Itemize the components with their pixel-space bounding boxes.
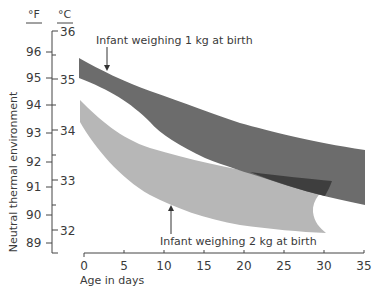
x-axis-title: Age in days	[80, 274, 145, 287]
x-tick-labels: 0 5 10 15 20 25 30 35	[80, 259, 371, 273]
svg-text:95: 95	[26, 71, 41, 85]
annotation-2kg: Infant weighing 2 kg at birth	[160, 235, 317, 248]
svg-text:33: 33	[60, 174, 75, 188]
c-unit-label: °C	[58, 8, 72, 21]
svg-text:35: 35	[60, 73, 75, 87]
svg-text:96: 96	[26, 45, 41, 59]
svg-text:91: 91	[26, 180, 41, 194]
svg-text:36: 36	[60, 25, 75, 39]
arrow-1kg-head	[104, 65, 110, 71]
y-axis-title: Neutral thermal environment	[7, 91, 20, 252]
svg-text:35: 35	[356, 259, 371, 273]
svg-text:90: 90	[26, 208, 41, 222]
svg-text:92: 92	[26, 155, 41, 169]
svg-text:34: 34	[60, 124, 75, 138]
svg-text:5: 5	[120, 259, 128, 273]
svg-text:15: 15	[196, 259, 211, 273]
svg-text:30: 30	[316, 259, 331, 273]
f-ticks	[46, 52, 52, 243]
svg-text:89: 89	[26, 236, 41, 250]
svg-text:94: 94	[26, 98, 41, 112]
f-tick-labels: 96 95 94 93 92 91 90 89	[26, 45, 41, 250]
svg-text:20: 20	[236, 259, 251, 273]
annotation-1kg: Infant weighing 1 kg at birth	[96, 34, 253, 47]
c-tick-labels: 36 35 34 33 32	[60, 25, 75, 238]
svg-text:32: 32	[60, 224, 75, 238]
svg-text:0: 0	[80, 259, 88, 273]
svg-text:93: 93	[26, 126, 41, 140]
c-ticks	[52, 55, 58, 230]
svg-text:10: 10	[156, 259, 171, 273]
thermal-chart: °F °C 96 95 94 93 92 91 90 89 36 35 34 3…	[0, 0, 380, 298]
arrow-2kg-head	[168, 205, 174, 211]
svg-text:25: 25	[276, 259, 291, 273]
f-unit-label: °F	[28, 8, 40, 21]
